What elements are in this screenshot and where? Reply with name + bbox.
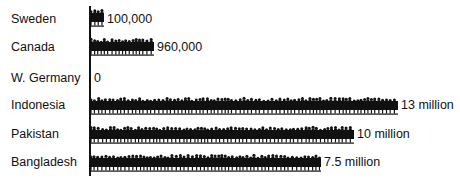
pictograph-bar — [90, 36, 154, 56]
value-label: 10 million — [357, 127, 410, 141]
value-label: 960,000 — [157, 40, 202, 54]
y-axis-line — [89, 6, 91, 176]
value-label: 13 million — [401, 98, 454, 112]
category-label: W. Germany — [11, 71, 80, 85]
value-label: 0 — [94, 71, 101, 85]
value-label: 7.5 million — [324, 155, 380, 169]
category-label: Pakistan — [11, 127, 59, 141]
pictograph-bar — [90, 95, 398, 115]
category-label: Canada — [11, 40, 55, 54]
pictograph-bar — [90, 152, 321, 172]
pictograph-bar — [90, 7, 104, 27]
value-label: 100,000 — [107, 12, 152, 26]
category-label: Sweden — [11, 12, 56, 26]
category-label: Bangladesh — [11, 155, 77, 169]
pictograph-bar — [90, 124, 354, 144]
category-label: Indonesia — [11, 98, 65, 112]
